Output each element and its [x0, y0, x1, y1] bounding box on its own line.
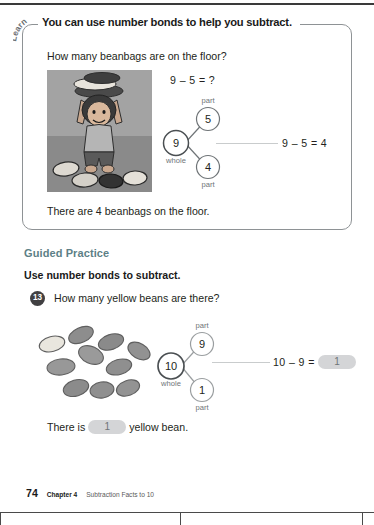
learn-title: You can use number bonds to help you sub… [42, 16, 292, 28]
practice-equation-answer-blank[interactable]: 1 [318, 355, 356, 369]
number-bond-practice: 10 9 1 whole part part [155, 320, 217, 416]
learn-result-equation: 9 – 5 = 4 [282, 137, 327, 149]
bottom-rule-vertical-right [362, 512, 363, 525]
bottom-rule-vertical-left [0, 512, 1, 525]
learn-answer-sentence: There are 4 beanbags on the floor. [47, 205, 210, 217]
bottom-rule-vertical-middle [180, 512, 181, 525]
bond2-whole-label: whole [160, 379, 181, 388]
beanbags-photo [47, 70, 152, 192]
learn-equation: 9 – 5 = ? [170, 74, 215, 86]
learn-question: How many beanbags are on the floor? [47, 50, 227, 62]
bond-part-bottom-label: part [201, 180, 215, 189]
bond-whole-label: whole [165, 156, 186, 165]
bond-part-top-value: 5 [205, 113, 211, 125]
practice-equation: 10 – 9 = 1 [273, 356, 356, 370]
final-answer-sentence: There is 1 yellow bean. [47, 421, 188, 435]
footer-chapter: Chapter 4 [47, 491, 77, 498]
number-bond-learn: 9 5 4 whole part part [163, 95, 221, 191]
bond-whole-value: 9 [173, 137, 179, 149]
question-text: How many yellow beans are there? [54, 292, 219, 304]
practice-equation-prefix: 10 – 9 = [273, 356, 315, 368]
final-answer-blank[interactable]: 1 [88, 420, 126, 434]
final-sentence-before: There is [47, 421, 85, 433]
bond2-part-top-label: part [195, 321, 209, 330]
page-top-rule [0, 3, 374, 5]
beans-illustration [34, 322, 156, 408]
bond2-connector-line [212, 362, 270, 363]
guided-practice-instruction: Use number bonds to subtract. [24, 269, 181, 281]
footer-chapter-title: Subtraction Facts to 10 [86, 491, 154, 498]
bond2-part-bottom-label: part [195, 403, 209, 412]
bottom-rule-horizontal [0, 512, 374, 513]
page-footer: 74 Chapter 4 Subtraction Facts to 10 [26, 487, 154, 499]
question-number-badge: 13 [30, 291, 45, 306]
final-sentence-after: yellow bean. [129, 421, 188, 433]
guided-practice-heading: Guided Practice [24, 247, 109, 259]
bond2-whole-value: 10 [165, 360, 177, 372]
bond-connector-line [216, 143, 278, 144]
bond-part-bottom-value: 4 [205, 161, 211, 173]
bond2-part-bottom-value: 1 [199, 384, 205, 396]
footer-page-number: 74 [26, 487, 38, 499]
bond-part-top-label: part [201, 96, 215, 105]
bond2-part-top-value: 9 [199, 338, 205, 350]
